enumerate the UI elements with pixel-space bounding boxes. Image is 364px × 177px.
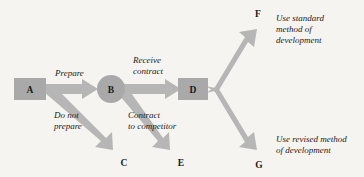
outcome-f-line1: Use standard [276,13,324,23]
outcome-g-line1: Use revised method [276,134,347,144]
node-d-label: D [190,85,197,95]
edge-label-do-not-prepare-line2: prepare [53,121,82,131]
edge-label-contract-competitor-line1: Contract [128,110,161,120]
edge-label-receive-contract-line2: contract [133,66,163,76]
outcome-f-line2: method of [276,24,313,34]
node-g-label: G [255,160,263,170]
outcome-g-line2: of development [276,145,331,155]
edge-label-receive-contract-line1: Receive [132,55,161,65]
node-a-label: A [27,85,34,95]
node-a[interactable]: A [14,78,46,100]
decision-tree-diagram: A B D C E F G Prepare Do not prepare Rec… [0,0,364,177]
node-e-label: E [178,158,184,168]
outcome-f-line3: development [276,35,322,45]
edge-label-contract-competitor-line2: to competitor [128,121,177,131]
node-c-label: C [121,158,128,168]
node-d[interactable]: D [178,78,208,100]
node-b-label: B [108,85,115,95]
node-b[interactable]: B [97,75,125,103]
node-f-label: F [255,9,261,19]
edge-label-do-not-prepare-line1: Do not [53,110,79,120]
edge-label-prepare: Prepare [54,68,84,78]
